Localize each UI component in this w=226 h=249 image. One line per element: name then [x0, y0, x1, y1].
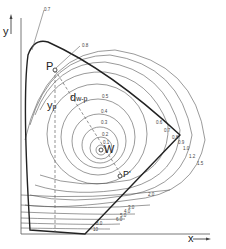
point-w [99, 148, 103, 152]
point-p-prime [118, 174, 122, 178]
contour-label-1.5: 1.5 [197, 162, 203, 167]
contour-label-0.7b: 0.7 [164, 129, 170, 134]
contour-label-0.1: 0.1 [103, 141, 109, 146]
dwp-label: dw-p [70, 92, 87, 103]
dwp-dashed-line [55, 70, 122, 176]
point-w-label: W [104, 144, 114, 155]
x-axis-label: x [188, 233, 194, 244]
contour-label-0.9: 0.9 [178, 141, 184, 146]
contour-label-6.0: 6.0 [116, 218, 122, 223]
contour-label-0.6: 0.6 [156, 121, 162, 126]
point-p-prime-label: P' [123, 170, 131, 179]
contour-label-1.2: 1.2 [189, 155, 195, 160]
tick-label-0.8: 0.8 [82, 44, 88, 49]
yp-label: yp [47, 100, 56, 111]
chromaticity-diagram: y x P W P' yp dw-p 0.1 0.2 0.3 0.4 0.5 0… [0, 0, 226, 249]
contour-label-0.4: 0.4 [101, 110, 107, 115]
contour-label-1.0: 1.0 [183, 147, 189, 152]
tick-0.7 [32, 10, 44, 50]
contour-label-8.0: 8.0 [96, 222, 102, 227]
x-arrowhead-icon [206, 238, 211, 241]
point-p [53, 68, 57, 72]
contour-label-0.2: 0.2 [102, 133, 108, 138]
contour-label-0.5: 0.5 [102, 95, 108, 100]
diagram-canvas [0, 0, 226, 249]
y-arrowhead-icon [10, 14, 13, 19]
contour-label-0.3: 0.3 [101, 121, 107, 126]
point-p-label: P [46, 61, 53, 72]
tick-label-0.7: 0.7 [44, 8, 50, 13]
y-axis-label: y [3, 26, 9, 37]
contour-label-2.0: 2.0 [148, 193, 154, 198]
contour-label-10: 10 [93, 228, 98, 233]
